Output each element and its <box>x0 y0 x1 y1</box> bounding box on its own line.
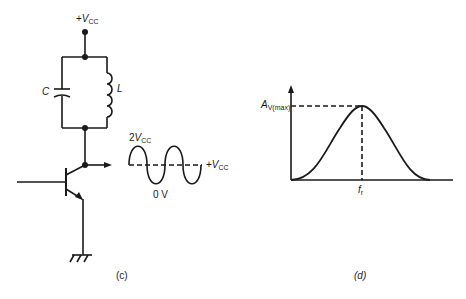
supply-node <box>82 29 88 35</box>
caption-d: (d) <box>354 271 366 281</box>
waveform-top-label: 2VCC <box>129 133 151 144</box>
caption-c: (c) <box>116 271 128 281</box>
inductor-coil <box>107 73 112 117</box>
inductor-label: L <box>117 84 123 94</box>
tank-bottom-node <box>82 125 88 131</box>
waveform-bottom-label: 0 V <box>153 190 168 200</box>
response-curve <box>291 106 430 180</box>
ground-hatch-1 <box>70 255 74 262</box>
y-axis-arrow-icon <box>288 85 294 93</box>
y-axis-label: AV(max) <box>261 100 290 111</box>
x-axis-label: fr <box>358 185 363 196</box>
diagram-canvas <box>0 0 466 299</box>
output-arrow-icon <box>104 162 112 168</box>
collector-node <box>82 162 88 168</box>
waveform-mid-label: +VCC <box>206 160 229 171</box>
transistor-collector <box>66 165 85 175</box>
supply-label: +VCC <box>76 14 99 25</box>
tank-top-node <box>82 54 88 60</box>
emitter-arrow-icon <box>75 192 83 200</box>
ground-hatch-3 <box>84 255 88 262</box>
capacitor-label: C <box>42 87 49 97</box>
ground-hatch-2 <box>77 255 81 262</box>
